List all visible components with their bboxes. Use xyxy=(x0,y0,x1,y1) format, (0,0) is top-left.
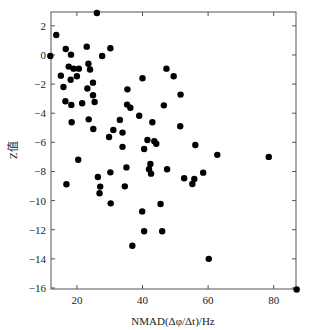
data-point xyxy=(99,53,105,59)
y-tick-label: −16 xyxy=(29,282,47,294)
data-point xyxy=(84,85,90,91)
data-point xyxy=(75,156,81,162)
data-point xyxy=(181,175,187,181)
data-point xyxy=(148,170,154,176)
data-point xyxy=(62,98,68,104)
data-point xyxy=(60,84,66,90)
data-point xyxy=(53,32,59,38)
data-point xyxy=(110,127,116,133)
data-point xyxy=(119,144,125,150)
data-point xyxy=(68,51,74,57)
data-point xyxy=(163,65,169,71)
data-point xyxy=(86,116,92,122)
data-point xyxy=(97,183,103,189)
data-point xyxy=(124,86,130,92)
data-point xyxy=(139,208,145,214)
data-point xyxy=(139,75,145,81)
data-point xyxy=(84,43,90,49)
x-tick-label: 20 xyxy=(71,294,83,306)
y-tick-label: 0 xyxy=(41,49,47,61)
scatter-points xyxy=(47,10,300,293)
data-point xyxy=(63,181,69,187)
y-tick-label: −6 xyxy=(34,136,46,148)
data-point xyxy=(90,79,96,85)
data-point xyxy=(122,183,128,189)
data-point xyxy=(90,92,96,98)
data-point xyxy=(117,117,123,123)
y-tick-label: −10 xyxy=(29,195,47,207)
data-point xyxy=(58,72,64,78)
data-point xyxy=(91,99,97,105)
y-tick-label: −4 xyxy=(34,107,46,119)
data-point xyxy=(159,228,165,234)
data-point xyxy=(141,228,147,234)
data-point xyxy=(164,166,170,172)
y-tick-label: −12 xyxy=(29,224,46,236)
y-tick-label: 2 xyxy=(41,20,47,32)
data-point xyxy=(107,45,113,51)
data-point xyxy=(119,129,125,135)
data-point xyxy=(123,164,129,170)
y-tick-label: −14 xyxy=(29,253,47,265)
data-point xyxy=(157,201,163,207)
data-point xyxy=(192,142,198,148)
data-point xyxy=(266,154,272,160)
data-point xyxy=(68,102,74,108)
y-tick-label: −8 xyxy=(34,165,46,177)
data-point xyxy=(47,53,53,59)
x-tick-label: 80 xyxy=(268,294,280,306)
scatter-chart: 20406080 20−2−4−6−8−10−12−14−16 NMAD(Δφ/… xyxy=(0,0,311,330)
x-tick-label: 40 xyxy=(137,294,149,306)
x-axis-label: NMAD(Δφ/Δt)/Hz xyxy=(131,315,215,328)
data-point xyxy=(94,10,100,16)
plot-frame xyxy=(51,12,296,289)
data-point xyxy=(161,102,167,108)
data-point xyxy=(79,100,85,106)
data-point xyxy=(189,181,195,187)
data-point xyxy=(177,91,183,97)
data-point xyxy=(63,46,69,52)
data-point xyxy=(96,190,102,196)
x-tick-label: 60 xyxy=(203,294,215,306)
data-point xyxy=(74,73,80,79)
data-point xyxy=(107,169,113,175)
data-point xyxy=(76,65,82,71)
data-point xyxy=(67,77,73,83)
data-point xyxy=(107,200,113,206)
data-point xyxy=(136,112,142,118)
data-point xyxy=(144,137,150,143)
data-point xyxy=(147,161,153,167)
data-point xyxy=(200,169,206,175)
y-axis-ticks: 20−2−4−6−8−10−12−14−16 xyxy=(29,20,296,294)
data-point xyxy=(95,174,101,180)
data-point xyxy=(149,119,155,125)
y-axis-label: Z值 xyxy=(7,141,19,159)
data-point xyxy=(127,104,133,110)
data-point xyxy=(129,243,135,249)
data-point xyxy=(153,141,159,147)
data-point xyxy=(141,146,147,152)
data-point xyxy=(106,134,112,140)
data-point xyxy=(214,152,220,158)
y-tick-label: −2 xyxy=(34,78,46,90)
data-point xyxy=(87,66,93,72)
data-point xyxy=(293,286,299,292)
data-point xyxy=(90,126,96,132)
data-point xyxy=(177,123,183,129)
data-point xyxy=(170,73,176,79)
data-point xyxy=(206,256,212,262)
data-point xyxy=(85,61,91,67)
data-point xyxy=(68,119,74,125)
